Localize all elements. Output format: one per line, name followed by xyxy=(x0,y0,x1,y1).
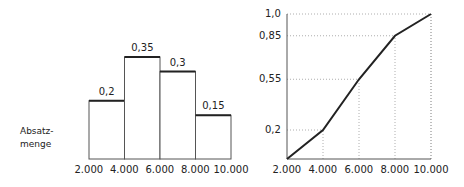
x-tick-label: 10.000 xyxy=(214,165,249,175)
y-label-line-2: menge xyxy=(20,138,54,151)
bar-value-label: 0,2 xyxy=(99,87,115,97)
histogram-bar xyxy=(89,101,125,159)
x-tick-label: 10.000 xyxy=(414,165,449,175)
charts-canvas xyxy=(0,0,464,187)
x-tick-label: 8.000 xyxy=(181,165,210,175)
x-tick-label: 8.000 xyxy=(381,165,410,175)
bar-value-label: 0,15 xyxy=(202,101,224,111)
bar-value-label: 0,3 xyxy=(170,58,186,68)
y-tick-label: 0,55 xyxy=(259,74,281,84)
x-tick-label: 2.000 xyxy=(273,165,302,175)
histogram-bar xyxy=(196,115,232,159)
y-axis-label: Absatz- menge xyxy=(20,125,54,151)
x-tick-label: 4.000 xyxy=(309,165,338,175)
y-tick-label: 0,85 xyxy=(259,31,281,41)
x-tick-label: 2.000 xyxy=(75,165,104,175)
x-tick-label: 6.000 xyxy=(146,165,175,175)
y-tick-label: 1,0 xyxy=(265,9,281,19)
cumulative-line-chart xyxy=(287,14,431,159)
histogram-bar xyxy=(160,72,196,159)
bar-value-label: 0,35 xyxy=(131,43,153,53)
y-label-line-1: Absatz- xyxy=(20,125,54,138)
x-tick-label: 4.000 xyxy=(110,165,139,175)
y-tick-label: 0,2 xyxy=(265,125,281,135)
histogram-bar xyxy=(125,57,161,159)
x-tick-label: 6.000 xyxy=(345,165,374,175)
